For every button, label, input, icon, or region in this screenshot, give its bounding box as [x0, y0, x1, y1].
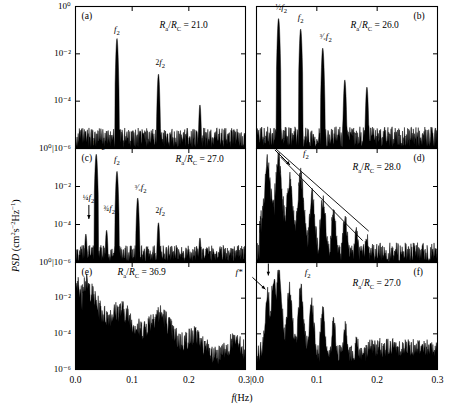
- y-tick-label-bot-2: 10⁻⁶: [10, 365, 71, 374]
- panel-letter-f: (f): [414, 268, 424, 278]
- y-tick-label-top-1: 10⁻²: [10, 49, 71, 58]
- peak-label-c-5: 2f2: [155, 206, 165, 215]
- y-axis-label: PSD (cm2s−2Hz−1): [10, 199, 21, 272]
- panel-letter-d: (d): [414, 154, 425, 164]
- peak-label-f-0: f*: [235, 268, 242, 277]
- peak-label-d-1: ½f2: [275, 137, 286, 146]
- y-tick-label-bot-0: 10⁻²: [10, 293, 71, 302]
- rayleigh-ratio-label-e: Ra/RC = 36.9: [118, 268, 166, 278]
- peak-label-b-2: ³⁄₂f2: [320, 32, 332, 41]
- spectrum-trace-f: [257, 270, 438, 370]
- y-tick-label-mid-0: 10⁻²: [10, 182, 71, 191]
- rayleigh-ratio-label-c: Ra/RC = 27.0: [176, 155, 224, 165]
- annotation-arrowhead-f: [267, 272, 270, 276]
- panel-letter-a: (a): [82, 12, 93, 22]
- peak-label-c-4: ³⁄₂f2: [135, 183, 147, 192]
- x-tick-label-2: 0.2: [169, 376, 209, 386]
- peak-label-c-3: f2: [114, 155, 120, 164]
- spectrum-trace-b: [257, 19, 438, 149]
- y-tick-label-top-2: 10⁻⁴: [10, 96, 71, 105]
- panel-letter-c: (c): [82, 154, 93, 164]
- y-tick-label-shared-1: 10⁰|10⁻⁶: [10, 144, 71, 153]
- peak-label-f-1: ¼f2: [261, 250, 272, 259]
- spectrum-trace-e: [76, 274, 246, 369]
- rayleigh-ratio-label-d: Ra/RC = 28.0: [353, 163, 401, 173]
- figure-panel-grid: (a)Ra/RC = 21.0f22f2(b)Ra/RC = 26.0½f2f2…: [0, 0, 458, 416]
- peak-label-f-2: ½f2: [279, 250, 290, 259]
- x-tick-label-0: 0.0: [56, 376, 96, 386]
- rayleigh-ratio-label-a: Ra/RC = 21.0: [160, 21, 208, 31]
- peak-label-a-0: f2: [114, 25, 120, 34]
- spectrum-trace-d: [257, 152, 438, 262]
- x-tick-label-1: 0.1: [112, 376, 152, 386]
- peak-label-a-1: 2f2: [155, 58, 165, 67]
- rayleigh-ratio-label-f: Ra/RC = 27.0: [353, 279, 401, 289]
- x-axis-label: f(Hz): [232, 392, 253, 403]
- peak-label-b-0: ½f2: [276, 3, 287, 12]
- peak-label-c-1: ½f2: [93, 140, 104, 149]
- x-tick-label-5: 0.3: [418, 376, 458, 386]
- peak-label-c-2: ¾f2: [104, 204, 115, 213]
- panel-letter-e: (e): [82, 268, 93, 278]
- rayleigh-ratio-label-b: Ra/RC = 26.0: [351, 21, 399, 31]
- peak-label-c-0: ¼f2: [83, 193, 94, 202]
- peak-label-f-3: f2: [305, 268, 311, 277]
- annotation-arrowhead-c: [87, 215, 90, 219]
- spectra-plot-canvas: [0, 0, 458, 416]
- x-tick-label-shared: 0.3|0.0: [231, 376, 271, 386]
- panel-letter-b: (b): [414, 12, 425, 22]
- spectrum-trace-a: [76, 38, 246, 148]
- y-tick-label-top-0: 10⁰: [10, 2, 71, 11]
- y-tick-label-bot-1: 10⁻⁴: [10, 329, 71, 338]
- peak-label-d-2: f2: [303, 149, 309, 158]
- peak-label-b-1: f2: [298, 13, 304, 22]
- x-tick-label-4: 0.2: [357, 376, 397, 386]
- x-tick-label-3: 0.1: [297, 376, 337, 386]
- peak-label-d-0: ¼f2: [256, 137, 267, 146]
